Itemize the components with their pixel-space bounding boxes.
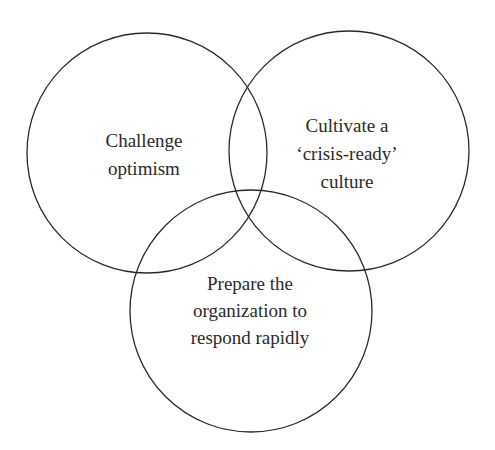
label-bottom-line-1: Prepare the bbox=[207, 273, 293, 294]
venn-diagram: Challenge optimism Cultivate a ‘crisis-r… bbox=[0, 0, 495, 450]
label-right-line-2: ‘crisis-ready’ bbox=[296, 143, 397, 164]
label-bottom-line-2: organization to bbox=[193, 300, 307, 321]
circle-challenge-optimism bbox=[27, 33, 267, 273]
label-left-line-1: Challenge bbox=[105, 130, 182, 151]
label-right-line-1: Cultivate a bbox=[306, 115, 389, 136]
label-bottom-line-3: respond rapidly bbox=[191, 327, 310, 348]
label-left-line-2: optimism bbox=[108, 158, 180, 179]
label-right-line-3: culture bbox=[321, 171, 374, 192]
